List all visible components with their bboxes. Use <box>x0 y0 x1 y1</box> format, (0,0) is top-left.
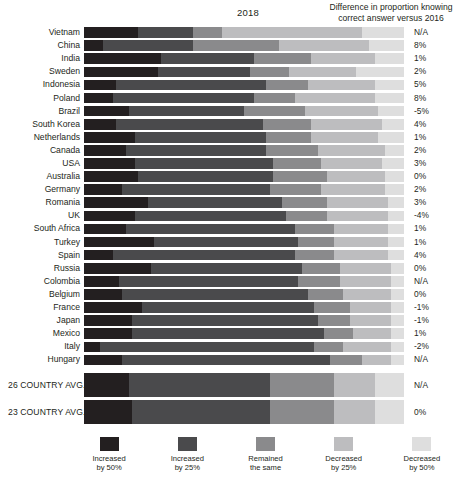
bar-segment-3 <box>295 250 333 261</box>
difference-value: 2% <box>404 185 467 194</box>
chart-legend: Increasedby 50%Increasedby 25%Remainedth… <box>70 437 461 473</box>
bar-segment-2 <box>148 197 282 208</box>
bar-segment-2 <box>132 400 270 424</box>
bar-segment-5 <box>391 342 404 353</box>
bar-segment-5 <box>391 276 404 287</box>
legend-label-line-1: Increased <box>92 454 125 463</box>
bar-segment-1 <box>84 184 122 195</box>
country-label: Romania <box>0 198 84 207</box>
legend-swatch-icon <box>256 437 275 451</box>
bar-segment-3 <box>298 276 340 287</box>
difference-value: 4% <box>404 251 467 260</box>
bar-segment-1 <box>84 302 142 313</box>
bar-segment-5 <box>378 132 404 143</box>
difference-value: 1% <box>404 54 467 63</box>
bar-segment-2 <box>129 373 270 397</box>
bar-segment-2 <box>116 119 263 130</box>
bar-segment-2 <box>113 93 254 104</box>
table-row: USA3% <box>0 157 471 170</box>
bar-segment-2 <box>122 355 330 366</box>
legend-label-line-2: the same <box>250 463 281 472</box>
bar-segment-1 <box>84 119 116 130</box>
stacked-bar <box>84 237 404 248</box>
bar-segment-5 <box>391 315 404 326</box>
table-row: Netherlands1% <box>0 131 471 144</box>
bar-segment-4 <box>334 250 388 261</box>
country-label: Belgium <box>0 290 84 299</box>
country-label: Russia <box>0 264 84 273</box>
bar-segment-5 <box>356 67 404 78</box>
bar-segment-2 <box>119 276 298 287</box>
difference-value: 3% <box>404 159 467 168</box>
bar-segment-2 <box>142 302 315 313</box>
bar-segment-1 <box>84 158 135 169</box>
stacked-bar <box>84 342 404 353</box>
bar-segment-3 <box>193 27 222 38</box>
bar-segment-5 <box>391 328 404 339</box>
stacked-bar <box>84 145 404 156</box>
stacked-bar <box>84 302 404 313</box>
table-row: South Africa1% <box>0 222 471 235</box>
bar-segment-1 <box>84 276 119 287</box>
table-row: VietnamN/A <box>0 26 471 39</box>
table-row: South Korea4% <box>0 118 471 131</box>
bar-segment-1 <box>84 80 116 91</box>
legend-label-line-1: Decreased <box>325 454 362 463</box>
country-label: USA <box>0 159 84 168</box>
stacked-bar <box>84 400 404 424</box>
bar-segment-2 <box>135 158 273 169</box>
bar-segment-4 <box>343 342 391 353</box>
bar-segment-3 <box>314 342 343 353</box>
bar-segment-1 <box>84 145 126 156</box>
average-label: 23 COUNTRY AVG. <box>0 407 84 417</box>
bar-segment-5 <box>385 184 404 195</box>
bar-segment-1 <box>84 400 132 424</box>
bar-segment-5 <box>382 158 404 169</box>
legend-item: Decreasedby 25% <box>305 437 383 473</box>
bar-segment-3 <box>266 132 311 143</box>
bar-segment-3 <box>324 328 353 339</box>
bar-segment-1 <box>84 342 100 353</box>
legend-item: Increasedby 50% <box>70 437 148 473</box>
table-row: Russia0% <box>0 262 471 275</box>
difference-header-line-2: correct answer versus 2016 <box>338 13 444 23</box>
bar-segment-4 <box>334 400 376 424</box>
legend-label-line-1: Increased <box>171 454 204 463</box>
stacked-bar <box>84 106 404 117</box>
country-label: Poland <box>0 94 84 103</box>
bar-segment-5 <box>385 145 404 156</box>
bar-segment-3 <box>270 373 334 397</box>
country-bar-chart: VietnamN/AChina8%India1%Sweden2%Indonesi… <box>0 26 471 366</box>
bar-segment-3 <box>286 211 328 222</box>
table-row: Germany2% <box>0 183 471 196</box>
table-row: Indonesia5% <box>0 78 471 91</box>
legend-label-line-1: Remained <box>248 454 283 463</box>
bar-segment-2 <box>151 263 301 274</box>
legend-item: Remainedthe same <box>226 437 304 473</box>
bar-segment-2 <box>100 342 314 353</box>
stacked-bar <box>84 211 404 222</box>
country-label: Netherlands <box>0 133 84 142</box>
average-row: 26 COUNTRY AVG.N/A <box>0 372 471 399</box>
difference-column-header: Difference in proportion knowing correct… <box>311 2 471 23</box>
country-label: Vietnam <box>0 28 84 37</box>
difference-value: -1% <box>404 316 467 325</box>
bar-segment-4 <box>321 184 385 195</box>
bar-segment-1 <box>84 197 148 208</box>
bar-segment-1 <box>84 93 113 104</box>
bar-segment-5 <box>388 237 404 248</box>
bar-segment-1 <box>84 53 161 64</box>
country-label: Hungary <box>0 355 84 364</box>
bar-segment-3 <box>193 40 279 51</box>
stacked-bar <box>84 224 404 235</box>
stacked-bar <box>84 250 404 261</box>
table-row: HungaryN/A <box>0 353 471 366</box>
bar-segment-1 <box>84 250 113 261</box>
stacked-bar <box>84 184 404 195</box>
bar-segment-1 <box>84 237 154 248</box>
bar-segment-3 <box>270 184 321 195</box>
bar-segment-4 <box>334 224 388 235</box>
bar-segment-4 <box>340 276 391 287</box>
average-row: 23 COUNTRY AVG.0% <box>0 399 471 426</box>
legend-label-line-2: by 50% <box>409 463 434 472</box>
